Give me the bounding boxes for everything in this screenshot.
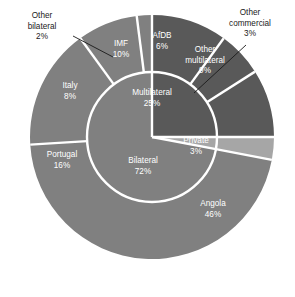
label-line: Other: [195, 45, 216, 54]
label-line: 72%: [135, 167, 151, 176]
label-line: Bilateral: [128, 156, 158, 165]
label-line: bilateral: [28, 22, 57, 31]
label-imf: IMF10%: [113, 39, 129, 59]
label-line: 25%: [144, 99, 160, 108]
label-line: 10%: [113, 50, 129, 59]
label-line: 46%: [205, 210, 221, 219]
label-line: 3%: [190, 147, 202, 156]
label-line: AfDB: [152, 31, 172, 40]
label-line: 3%: [244, 29, 256, 38]
label-line: multilateral: [185, 56, 225, 65]
pie-chart: Multilateral25%Private3%Bilateral72%IMF1…: [0, 0, 295, 297]
pie-chart-canvas: Multilateral25%Private3%Bilateral72%IMF1…: [0, 0, 295, 297]
label-line: Angola: [200, 199, 226, 208]
label-line: commercial: [229, 19, 271, 28]
label-line: Portugal: [47, 150, 78, 159]
label-line: Multilateral: [132, 88, 172, 97]
label-line: Other: [240, 8, 261, 17]
label-line: 2%: [36, 32, 48, 41]
label-line: IMF: [114, 39, 128, 48]
label-line: 6%: [156, 42, 168, 51]
label-line: Private: [183, 136, 209, 145]
label-line: Italy: [62, 81, 78, 90]
label-other-bilateral: Otherbilateral2%: [28, 11, 57, 41]
label-line: 8%: [64, 92, 76, 101]
label-line: 9%: [199, 66, 211, 75]
label-line: Other: [32, 11, 53, 20]
label-line: 16%: [54, 161, 70, 170]
label-other-commercial: Othercommercial3%: [229, 8, 271, 38]
